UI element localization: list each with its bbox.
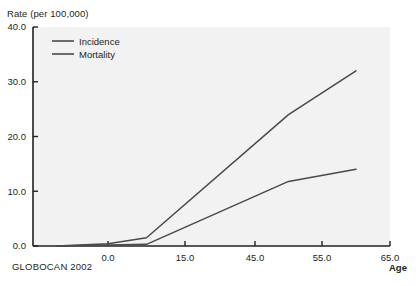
- y-tick-label: 10.0: [8, 186, 27, 197]
- legend-label-incidence: Incidence: [79, 36, 120, 47]
- x-tick-label: 45.0: [246, 252, 265, 263]
- plot-background: [33, 27, 390, 246]
- y-tick-label: 40.0: [8, 21, 27, 32]
- x-tick-label: 55.0: [313, 252, 332, 263]
- y-tick-label: 30.0: [8, 76, 27, 87]
- source-note: GLOBOCAN 2002: [12, 261, 92, 272]
- x-tick-label: 15.0: [176, 252, 195, 263]
- chart-plot-area: 0.010.020.030.040.0 0.015.045.055.065.0 …: [0, 0, 420, 286]
- y-tick-label: 20.0: [8, 131, 27, 142]
- y-tick-label: 0.0: [13, 240, 26, 251]
- x-tick-label: 0.0: [101, 252, 114, 263]
- x-axis-title: Age: [389, 262, 407, 273]
- chart-figure: Rate (per 100,000) 0.010.020.030.040.0 0…: [0, 0, 420, 286]
- legend-label-mortality: Mortality: [79, 49, 115, 60]
